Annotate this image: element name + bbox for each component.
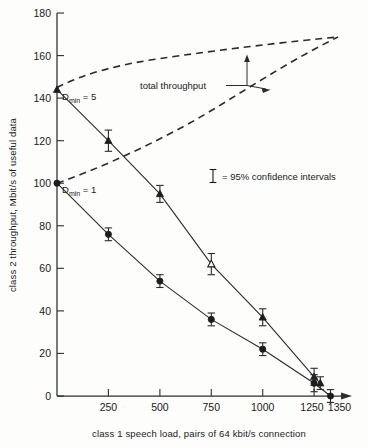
annotation-dmin5: Dmin = 5 xyxy=(62,91,96,104)
annotation-dmin5-text: Dmin = 5 xyxy=(62,91,96,104)
annotation-dmin1-text: Dmin = 1 xyxy=(62,184,96,197)
x-tick-label-1250: 1250 xyxy=(300,401,324,413)
series-dmin1-markers xyxy=(54,180,334,399)
legend-confidence-intervals: = 95% confidence intervals xyxy=(210,170,336,183)
y-tick-label-180: 180 xyxy=(33,7,51,19)
y-tick-label-120: 120 xyxy=(33,135,51,147)
annotation-total-throughput-text: total throughput xyxy=(140,80,206,91)
y-axis-title: class 2 throughput, Mbit/s of useful dat… xyxy=(7,117,18,292)
chart-figure: 180 160 140 120 100 80 60 40 20 0 250 50… xyxy=(0,0,368,448)
confidence-interval-icon xyxy=(210,170,217,183)
y-tick-label-80: 80 xyxy=(39,220,51,232)
series-dmin1-errorbars xyxy=(105,228,335,403)
x-tick-label-1000: 1000 xyxy=(251,401,275,413)
y-tick-label-160: 160 xyxy=(33,50,51,62)
x-axis: 250 500 750 1000 1250 1350 xyxy=(57,389,352,413)
annotation-total-throughput: total throughput xyxy=(140,55,271,94)
total-throughput-arrowhead-right-icon xyxy=(262,88,271,93)
x-axis-arrowhead-icon xyxy=(341,393,352,400)
series-dmin5-line xyxy=(57,90,320,384)
total-throughput-curve-dmin1 xyxy=(57,37,338,183)
x-axis-title: class 1 speech load, pairs of 64 kbit/s … xyxy=(92,428,306,439)
y-axis: 180 160 140 120 100 80 60 40 20 0 xyxy=(33,7,64,402)
y-tick-label-20: 20 xyxy=(39,347,51,359)
y-tick-label-40: 40 xyxy=(39,305,51,317)
x-tick-label-500: 500 xyxy=(151,401,169,413)
x-tick-label-250: 250 xyxy=(100,401,118,413)
series-dmin1-line xyxy=(57,183,331,396)
x-tick-label-750: 750 xyxy=(203,401,221,413)
legend-confidence-intervals-text: = 95% confidence intervals xyxy=(222,171,336,182)
y-tick-label-140: 140 xyxy=(33,92,51,104)
annotation-dmin1: Dmin = 1 xyxy=(62,184,96,197)
chart-canvas: 180 160 140 120 100 80 60 40 20 0 250 50… xyxy=(0,0,368,448)
total-throughput-arrowhead-up-icon xyxy=(244,55,250,63)
y-tick-label-60: 60 xyxy=(39,262,51,274)
y-tick-label-0: 0 xyxy=(45,390,51,402)
y-tick-label-100: 100 xyxy=(33,177,51,189)
